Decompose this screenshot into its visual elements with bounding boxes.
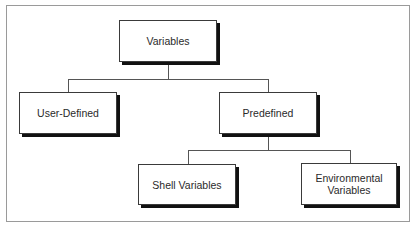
node-label: Shell Variables <box>152 179 221 191</box>
connector-level1-bar <box>68 79 269 80</box>
node-shell-variables: Shell Variables <box>138 164 236 205</box>
connector-predefined-down <box>268 134 269 150</box>
node-environmental-variables: Environmental Variables <box>301 163 397 205</box>
node-label: Variables <box>147 35 190 47</box>
connector-to-user-defined <box>68 79 69 92</box>
node-label: Predefined <box>243 107 294 119</box>
connector-level2-bar <box>188 150 351 151</box>
node-predefined: Predefined <box>219 92 317 134</box>
node-variables: Variables <box>119 20 217 62</box>
node-label: User-Defined <box>37 107 99 119</box>
connector-to-shell-variables <box>188 150 189 164</box>
connector-root-down <box>168 62 169 79</box>
connector-to-predefined <box>268 79 269 92</box>
node-user-defined: User-Defined <box>19 92 117 134</box>
connector-to-environmental-variables <box>350 150 351 163</box>
node-label: Environmental Variables <box>315 172 382 196</box>
